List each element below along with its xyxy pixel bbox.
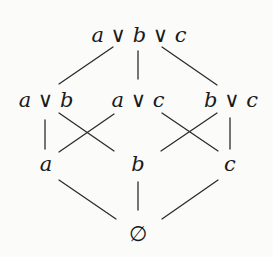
edge-abc-bc <box>162 47 217 85</box>
node-ab-var-1: a <box>19 88 32 112</box>
node-ab-var-2: b <box>60 88 73 112</box>
join-operator: ∨ <box>131 88 146 112</box>
node-b-or-c: b ∨ c <box>204 88 258 112</box>
edge-c-empty <box>162 180 218 219</box>
node-a-or-b: a ∨ b <box>19 88 74 112</box>
edge-abc-ab <box>59 47 113 84</box>
node-b: b <box>131 152 144 176</box>
node-ac-var-2: c <box>153 88 165 112</box>
join-operator: ∨ <box>224 88 239 112</box>
node-top: a ∨ b ∨ c <box>91 23 186 47</box>
join-operator: ∨ <box>38 88 53 112</box>
join-operator: ∨ <box>111 23 126 47</box>
node-bc-var-1: b <box>204 88 217 112</box>
edge-ab-b <box>59 113 114 151</box>
node-a-or-c: a ∨ c <box>111 88 164 112</box>
node-top-var-1: a <box>91 23 104 47</box>
node-ac-var-1: a <box>111 88 124 112</box>
node-c: c <box>224 152 236 176</box>
edge-ac-a <box>59 114 114 152</box>
join-operator: ∨ <box>153 23 168 47</box>
node-a: a <box>40 152 53 176</box>
edge-a-empty <box>59 180 116 219</box>
node-bc-var-2: c <box>246 88 258 112</box>
hasse-diagram: a ∨ b ∨ c a ∨ b a ∨ c b ∨ c a b c ∅ <box>0 0 273 257</box>
node-top-var-2: b <box>133 23 146 47</box>
node-empty-set: ∅ <box>129 222 147 246</box>
node-top-var-3: c <box>175 23 187 47</box>
